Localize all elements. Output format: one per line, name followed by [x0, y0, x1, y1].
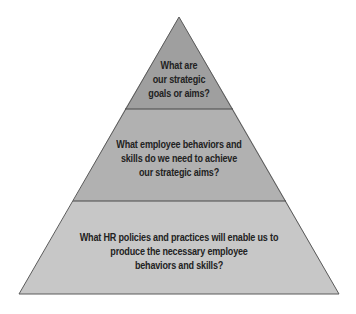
tier-bottom-label: What HR policies and practices will enab… — [59, 230, 300, 272]
tier-middle-line-3: our strategic aims? — [102, 165, 257, 179]
tier-top-line-3: goals or aims? — [127, 86, 230, 100]
tier-middle-line-1: What employee behaviors and — [102, 137, 257, 151]
tier-top-line-1: What are — [127, 58, 230, 72]
tier-bottom-line-1: What HR policies and practices will enab… — [59, 230, 300, 244]
tier-bottom-line-2: produce the necessary employee — [59, 244, 300, 258]
tier-bottom-line-3: behaviors and skills? — [59, 258, 300, 272]
tier-middle-label: What employee behaviors and skills do we… — [102, 137, 257, 179]
tier-top-label: What are our strategic goals or aims? — [127, 58, 230, 100]
tier-top-line-2: our strategic — [127, 72, 230, 86]
tier-middle-line-2: skills do we need to achieve — [102, 151, 257, 165]
